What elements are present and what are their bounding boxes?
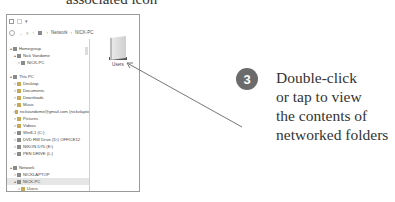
callout-line: Double-click (276, 68, 388, 87)
callout-line: the contents of (276, 106, 388, 125)
callout-line: networked folders (276, 125, 388, 144)
callout-text: Double-click or tap to view the contents… (276, 68, 388, 144)
step-number-badge: 3 (236, 68, 258, 90)
callout-line: or tap to view (276, 87, 388, 106)
